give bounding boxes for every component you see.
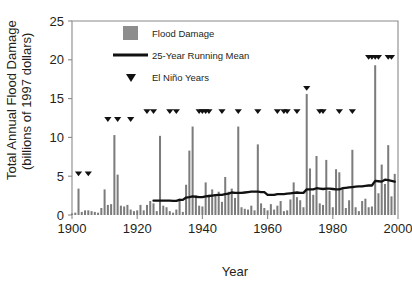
el-nino-marker [150,109,157,114]
bar [280,201,282,215]
bar [182,212,184,215]
y-tick-label: 20 [50,52,64,67]
el-nino-marker [218,109,225,114]
bar [149,201,151,215]
bar [257,144,259,215]
bar [273,210,275,215]
el-nino-marker [166,109,173,114]
bar [166,207,168,215]
el-nino-marker [336,109,343,114]
bar [192,127,194,215]
y-tick-label: 5 [57,169,64,184]
bar [267,210,269,215]
bar [81,212,83,215]
bar [162,206,164,215]
x-tick-label: 1960 [253,221,282,236]
bar [126,205,128,215]
bar [374,65,376,215]
bar [175,210,177,215]
el-nino-marker [349,109,356,114]
bar [71,213,73,215]
el-nino-marker [173,109,180,114]
y-axis-title-line1: Total Annual Flood Damage [4,20,19,180]
bar [94,212,96,215]
x-axis-title: Year [222,264,249,279]
bar [237,127,239,215]
el-nino-marker [143,109,150,114]
legend-label-running-mean: 25-Year Running Mean [152,50,249,61]
bar [364,199,366,215]
el-nino-marker [235,109,242,114]
bar [345,208,347,215]
bar [250,206,252,215]
bar [188,151,190,215]
bar [335,169,337,215]
y-tick-label: 15 [50,91,64,106]
flood-damage-chart-figure: 0510152025 190019201940196019802000 Tota… [0,0,412,286]
el-nino-marker [114,117,121,122]
bar [358,211,360,215]
bar [201,206,203,215]
legend-triangle-down-icon [126,74,136,82]
bar [146,205,148,215]
bar [286,210,288,215]
el-nino-marker [85,171,92,176]
bar [355,207,357,215]
bar [100,208,102,215]
bar [84,210,86,215]
bar [315,156,317,215]
legend-label-el-nino-years: El Niño Years [152,72,209,83]
bar [117,175,119,215]
y-axis-title-line2: (billions of 1997 dollars) [19,33,34,170]
bar [322,205,324,215]
bar [120,206,122,215]
bar [74,213,76,215]
bar [113,135,115,215]
bar [260,203,262,215]
bar [319,203,321,215]
bar [283,211,285,215]
bar [172,213,174,215]
bar [107,205,109,215]
bar [169,211,171,215]
bar [133,211,135,215]
bar [136,210,138,215]
bar [299,200,301,215]
bar [384,184,386,215]
bar [195,196,197,215]
bar [234,198,236,215]
y-tick-label: 10 [50,130,64,145]
bar [211,189,213,215]
bar [329,191,331,215]
y-axis-title: Total Annual Flood Damage (billions of 1… [4,20,34,180]
bar [348,200,350,215]
bar [368,207,370,215]
bar [152,203,154,215]
bar [97,213,99,215]
bar [342,189,344,215]
bar [371,206,373,215]
x-tick-label: 1920 [123,221,152,236]
el-nino-marker [303,86,310,91]
bar [185,185,187,215]
el-nino-marker [127,117,134,122]
bar [390,196,392,215]
bar [78,189,80,215]
bar [224,177,226,215]
x-tick-label: 1940 [188,221,217,236]
bar [159,136,161,215]
bar [325,160,327,215]
el-nino-marker [274,109,281,114]
bar [338,172,340,215]
bar [309,168,311,215]
bar [293,182,295,215]
bar [156,211,158,215]
bar [241,207,243,215]
bar [263,208,265,215]
bar [227,192,229,215]
bar [332,207,334,215]
bar [270,204,272,215]
legend-label-flood-damage: Flood Damage [152,28,214,39]
bar [214,194,216,215]
bar [221,202,223,215]
